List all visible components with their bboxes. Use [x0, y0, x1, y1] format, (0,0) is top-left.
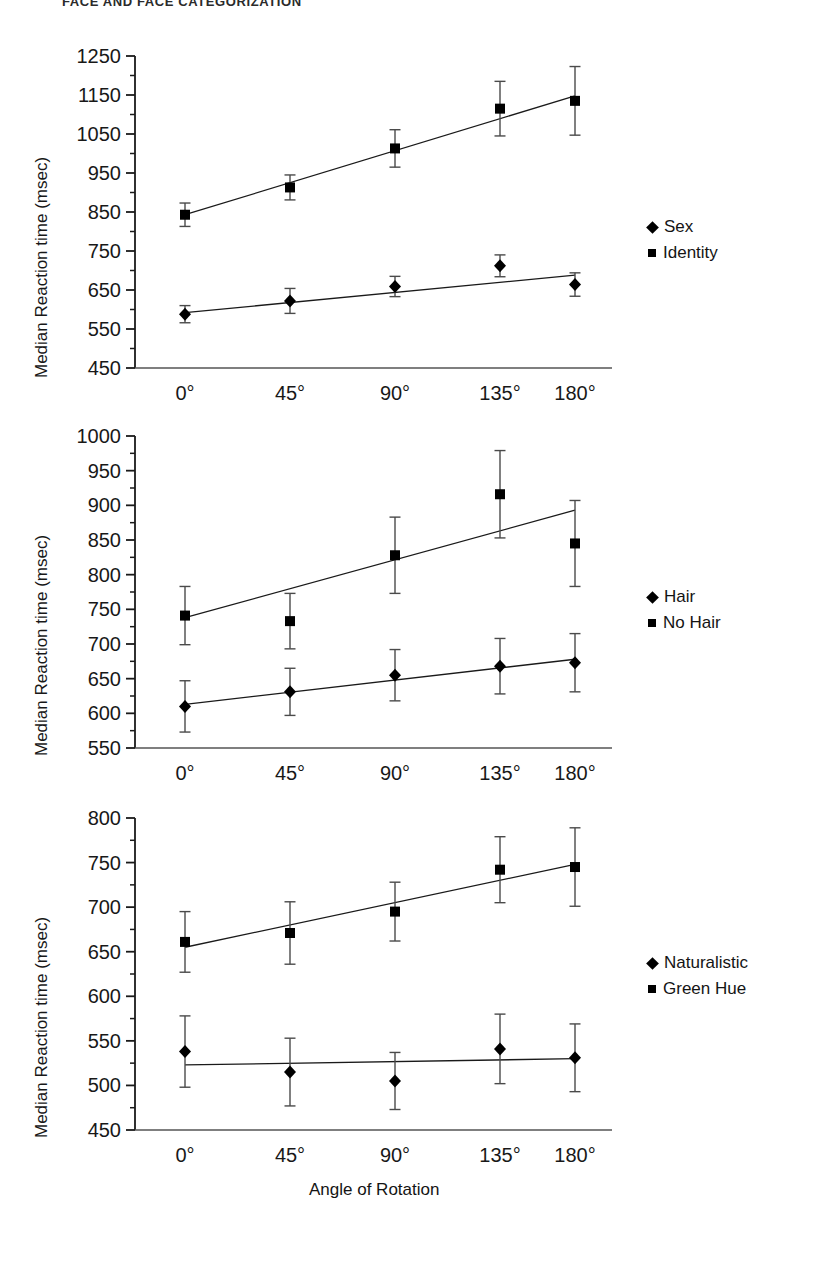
data-point: [390, 517, 401, 593]
y-tick-label: 750: [88, 240, 121, 262]
y-tick-label: 950: [88, 460, 121, 482]
data-point: [284, 288, 296, 313]
legend-item[interactable]: Sex: [648, 214, 718, 240]
legend-label: Green Hue: [663, 976, 746, 1002]
running-head: FACE AND FACE CATEGORIZATION: [62, 0, 352, 6]
diamond-marker-icon: [646, 591, 659, 604]
data-point: [569, 1024, 581, 1092]
x-axis-label: Angle of Rotation: [309, 1180, 439, 1200]
y-tick-label: 550: [88, 737, 121, 759]
y-tick-label: 500: [88, 1074, 121, 1096]
legend-label: Sex: [664, 214, 693, 240]
square-marker-icon: [648, 249, 656, 257]
data-point: [180, 912, 191, 973]
legend-item[interactable]: Identity: [648, 240, 718, 266]
panel-3-legend: Naturalistic Green Hue: [648, 950, 748, 1002]
y-tick-label: 850: [88, 529, 121, 551]
y-tick-label: 550: [88, 318, 121, 340]
x-tick-label: 180°: [554, 382, 595, 404]
x-tick-label: 135°: [479, 382, 520, 404]
legend-label: Identity: [663, 240, 718, 266]
y-tick-label: 800: [88, 564, 121, 586]
panel-2-legend: Hair No Hair: [648, 584, 721, 636]
data-point: [570, 67, 581, 136]
legend-item[interactable]: No Hair: [648, 610, 721, 636]
y-tick-label: 600: [88, 702, 121, 724]
data-point: [495, 837, 506, 903]
data-point: [179, 306, 191, 323]
data-point: [179, 681, 191, 732]
y-tick-label: 650: [88, 668, 121, 690]
x-tick-label: 45°: [275, 382, 305, 404]
y-tick-label: 550: [88, 1030, 121, 1052]
x-tick-label: 90°: [380, 762, 410, 784]
y-tick-label: 950: [88, 162, 121, 184]
legend-label: No Hair: [663, 610, 721, 636]
diamond-marker-icon: [646, 221, 659, 234]
y-tick-label: 1050: [77, 123, 122, 145]
data-point: [284, 668, 296, 715]
y-tick-label: 700: [88, 896, 121, 918]
y-tick-label: 450: [88, 357, 121, 379]
chart-panel-3: Median Reaction time (msec) 450500550600…: [0, 790, 814, 1210]
y-tick-label: 750: [88, 598, 121, 620]
legend-label: Hair: [664, 584, 695, 610]
data-point: [389, 276, 401, 296]
y-tick-label: 700: [88, 633, 121, 655]
data-point: [285, 902, 296, 964]
x-tick-label: 0°: [175, 1144, 194, 1166]
y-tick-label: 850: [88, 201, 121, 223]
y-tick-label: 1000: [77, 425, 122, 447]
legend-item[interactable]: Green Hue: [648, 976, 748, 1002]
panel-1-legend: Sex Identity: [648, 214, 718, 266]
y-tick-label: 1150: [78, 84, 121, 106]
legend-label: Naturalistic: [664, 950, 748, 976]
data-point: [285, 175, 296, 200]
x-tick-label: 180°: [554, 1144, 595, 1166]
data-point: [285, 593, 296, 648]
square-marker-icon: [648, 985, 656, 993]
x-tick-label: 135°: [479, 1144, 520, 1166]
figure-container: FACE AND FACE CATEGORIZATION Median Reac…: [0, 0, 814, 1276]
data-point: [284, 1038, 296, 1106]
data-point: [390, 882, 401, 941]
data-point: [569, 273, 581, 296]
data-point: [180, 203, 191, 226]
y-tick-label: 750: [88, 852, 121, 874]
chart-panel-2: Median Reaction time (msec) 550600650700…: [0, 408, 814, 808]
y-tick-label: 900: [88, 494, 121, 516]
x-tick-label: 0°: [175, 382, 194, 404]
data-point: [390, 130, 401, 167]
data-point: [389, 650, 401, 701]
legend-item[interactable]: Hair: [648, 584, 721, 610]
data-point: [494, 638, 506, 693]
x-tick-label: 45°: [275, 1144, 305, 1166]
y-tick-label: 650: [88, 279, 121, 301]
data-point: [570, 828, 581, 906]
diamond-marker-icon: [646, 957, 659, 970]
y-tick-label: 800: [88, 807, 121, 829]
data-point: [180, 586, 191, 644]
x-tick-label: 90°: [380, 382, 410, 404]
y-tick-label: 1250: [77, 45, 122, 67]
x-tick-label: 180°: [554, 762, 595, 784]
data-point: [570, 500, 581, 586]
data-point: [494, 255, 506, 277]
legend-item[interactable]: Naturalistic: [648, 950, 748, 976]
y-tick-label: 450: [88, 1119, 121, 1141]
x-tick-label: 135°: [479, 762, 520, 784]
data-point: [494, 1014, 506, 1084]
x-tick-label: 45°: [275, 762, 305, 784]
data-point: [569, 634, 581, 692]
data-point: [495, 81, 506, 136]
square-marker-icon: [648, 619, 656, 627]
y-tick-label: 600: [88, 985, 121, 1007]
x-tick-label: 90°: [380, 1144, 410, 1166]
data-point: [495, 451, 506, 538]
chart-panel-1: Median Reaction time (msec) 450550650750…: [0, 28, 814, 428]
x-tick-label: 0°: [175, 762, 194, 784]
y-tick-label: 650: [88, 941, 121, 963]
data-point: [179, 1016, 191, 1087]
